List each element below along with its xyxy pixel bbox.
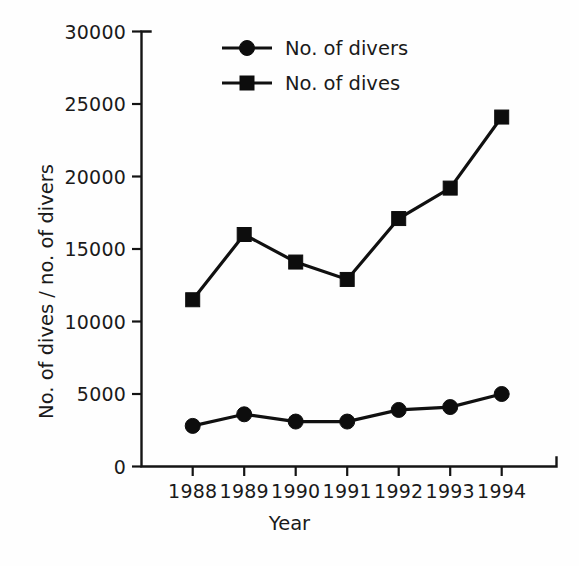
y-tick-label: 5000 xyxy=(0,383,126,405)
data-point-divers xyxy=(391,402,406,417)
data-point-divers xyxy=(340,414,355,429)
y-axis-title: No. of dives / no. of divers xyxy=(35,142,58,442)
axes-group xyxy=(142,32,557,467)
legend-marks xyxy=(222,41,272,91)
y-tick-label: 20000 xyxy=(0,166,126,188)
x-tick-label: 1989 xyxy=(220,480,269,502)
y-tick-label: 25000 xyxy=(0,93,126,115)
data-point-dives xyxy=(237,228,251,242)
chart-figure: 050001000015000200002500030000 198819891… xyxy=(0,0,579,566)
legend-marker-square xyxy=(240,76,254,90)
x-tick-label: 1988 xyxy=(168,480,217,502)
data-series-group xyxy=(185,110,509,433)
y-tick-marks xyxy=(132,32,142,467)
y-tick-label: 0 xyxy=(0,456,126,478)
data-point-divers xyxy=(443,400,458,415)
x-tick-label: 1991 xyxy=(323,480,372,502)
x-tick-label: 1994 xyxy=(477,480,526,502)
data-point-divers xyxy=(494,387,509,402)
x-tick-label: 1992 xyxy=(374,480,423,502)
data-point-divers xyxy=(185,418,200,433)
x-tick-label: 1993 xyxy=(426,480,475,502)
data-point-dives xyxy=(443,181,457,195)
y-tick-label: 10000 xyxy=(0,311,126,333)
legend-marker-circle xyxy=(240,41,255,56)
data-point-dives xyxy=(392,212,406,226)
data-point-dives xyxy=(289,255,303,269)
legend-label-divers: No. of divers xyxy=(285,37,408,60)
data-point-dives xyxy=(495,110,509,124)
x-tick-label: 1990 xyxy=(271,480,320,502)
y-tick-label: 30000 xyxy=(0,21,126,43)
y-tick-label: 15000 xyxy=(0,238,126,260)
x-tick-marks xyxy=(193,467,502,477)
data-point-dives xyxy=(340,272,354,286)
x-axis-title: Year xyxy=(0,512,579,535)
legend-label-dives: No. of dives xyxy=(285,72,400,95)
axis-frame xyxy=(142,32,557,467)
data-point-divers xyxy=(288,414,303,429)
data-point-divers xyxy=(237,407,252,422)
data-point-dives xyxy=(186,293,200,307)
